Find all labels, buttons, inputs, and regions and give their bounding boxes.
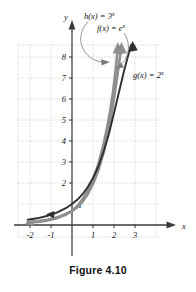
x-tick-label-2: 2 [112, 230, 117, 240]
g-curve-tail-arrowhead [46, 211, 55, 218]
f-curve-label: f(x) = ex [97, 23, 126, 33]
y-axis-arrowhead [69, 20, 76, 30]
g-curve-label: g(x) = 2x [133, 70, 164, 80]
x-tick-labels: -2 -1 1 2 3 [26, 230, 137, 240]
x-tick-label-neg2: -2 [26, 230, 34, 240]
y-tick-label-8: 8 [62, 52, 67, 62]
f-curve-label-exponent: x [122, 23, 126, 29]
x-axis-arrowhead [167, 222, 177, 229]
y-tick-label-7: 7 [62, 73, 67, 83]
y-tick-label-3: 3 [61, 157, 66, 167]
x-tick-label-3: 3 [132, 230, 137, 240]
g-curve-label-exponent: x [160, 70, 164, 76]
f-curve-label-base: f(x) = e [97, 23, 123, 33]
x-tick-label-neg1: -1 [47, 230, 54, 240]
g-curve-arrowhead [128, 41, 138, 52]
y-tick-label-2: 2 [62, 178, 67, 188]
figure-container: 8 7 6 5 4 3 2 1 -2 -1 1 2 3 y x [0, 0, 196, 292]
h-curve-label-base: h(x) = 3 [84, 11, 112, 21]
figure-caption: Figure 4.10 [0, 264, 196, 276]
y-tick-label-5: 5 [62, 115, 66, 125]
y-tick-label-6: 6 [62, 94, 67, 104]
h-curve-label-exponent: x [111, 11, 115, 17]
f-curve [28, 42, 127, 222]
f-curve-path [28, 50, 121, 222]
x-axis-label: x [181, 221, 186, 231]
g-curve-label-base: g(x) = 2 [133, 70, 162, 80]
h-label-leader-arrowhead [101, 59, 110, 65]
h-curve-label: h(x) = 3x [84, 11, 115, 21]
x-tick-label-1: 1 [91, 230, 95, 240]
y-tick-label-4: 4 [62, 136, 67, 146]
y-axis-label: y [63, 12, 68, 22]
exponential-functions-plot: 8 7 6 5 4 3 2 1 -2 -1 1 2 3 y x [0, 0, 196, 292]
